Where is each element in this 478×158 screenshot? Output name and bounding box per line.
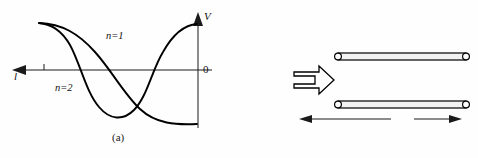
curve-label-n2: n=2 [55, 82, 73, 93]
axis-label-origin: 0 [203, 63, 209, 75]
panel-a-voltage-plot: n=1 n=2 l V 0 (a) [0, 0, 239, 158]
upper-right-terminal-icon [463, 53, 470, 60]
curve-label-n1: n=1 [106, 30, 124, 41]
panel-b-transmission-line: Zin Z0,β,α l (b) [239, 0, 478, 158]
lower-right-terminal-icon [463, 101, 470, 108]
caption-panel-a: (a) [112, 131, 124, 143]
length-dimension-arrow [299, 115, 462, 123]
lower-conductor [335, 101, 470, 108]
upper-conductor [335, 53, 470, 60]
transmission-line-svg [239, 0, 478, 158]
upper-left-terminal-icon [335, 53, 342, 60]
lower-left-terminal-icon [335, 101, 342, 108]
input-impedance-arrow-icon [294, 66, 334, 94]
axis-label-length: l [14, 70, 17, 82]
figure-container: n=1 n=2 l V 0 (a) [0, 0, 478, 158]
axis-label-voltage: V [204, 10, 211, 22]
